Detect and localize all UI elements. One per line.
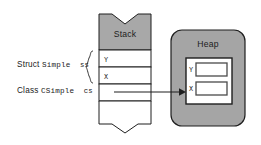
struct-variable-name: ss [80,61,89,69]
class-keyword: Class [17,86,38,95]
heap-field-x-label: X [189,85,193,93]
stack-cell-empty [99,101,151,133]
class-variable-name: cs [84,87,93,95]
diagram-graphics [0,0,261,145]
stack-cell-x-label: X [104,73,108,81]
class-type: CSimple [41,87,74,95]
struct-variable-label: Struct Simple ss [17,60,89,69]
heap-field-y-slot [196,63,227,76]
diagram-canvas: Struct Simple ss Class CSimple cs Stack … [0,0,261,145]
heap-title: Heap [172,39,244,49]
stack-cell-y-label: Y [104,56,108,64]
class-variable-label: Class CSimple cs [17,86,93,95]
heap-field-x-slot [196,82,227,95]
heap-field-y-label: Y [189,66,193,74]
struct-keyword: Struct [17,60,40,69]
stack-title: Stack [99,29,151,39]
struct-type: Simple [42,61,71,69]
